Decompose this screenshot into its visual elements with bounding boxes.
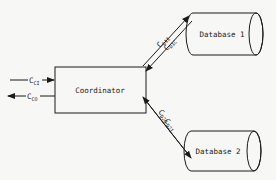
edge-db1-out: CD1I	[143, 16, 189, 66]
diagram-canvas: Coordinator Database 1 Database 2 CCI CC…	[0, 0, 276, 180]
edge-left-in: CCI	[10, 75, 54, 86]
database1-label: Database 1	[199, 30, 244, 39]
coordinator-label: Coordinator	[75, 86, 125, 95]
edge-db2-in: CD2I	[146, 101, 191, 158]
database2-node: Database 2	[184, 131, 261, 171]
coordinator-node: Coordinator	[55, 67, 146, 113]
edge-db1-in: CD1C	[146, 21, 192, 71]
database1-node: Database 1	[186, 13, 263, 55]
database2-label: Database 2	[195, 147, 240, 156]
edge-left-out: CCO	[8, 91, 55, 102]
